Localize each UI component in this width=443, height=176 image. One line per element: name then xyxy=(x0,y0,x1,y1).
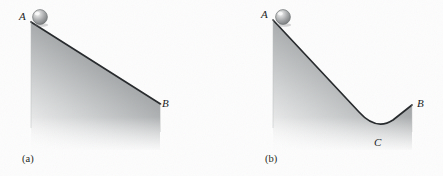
bottom-fade-b xyxy=(271,60,414,152)
figure-panel-a: A B (a) xyxy=(0,0,221,176)
panel-a-drawing xyxy=(0,0,221,176)
ball-sphere-a xyxy=(33,10,48,25)
point-label-a-start: A xyxy=(19,11,26,22)
point-label-a-end: B xyxy=(162,98,169,109)
point-label-b-start: A xyxy=(261,9,268,20)
bottom-fade-a xyxy=(29,60,163,152)
panel-caption-b: (b) xyxy=(265,154,277,165)
panel-caption-a: (a) xyxy=(22,154,34,165)
figure-container: A B (a) xyxy=(0,0,443,176)
point-label-b-valley: C xyxy=(374,137,382,148)
ball-sphere-b xyxy=(276,10,291,25)
ball-highlight-b xyxy=(278,12,283,16)
panel-b-drawing xyxy=(221,0,443,176)
figure-panel-b: A C B (b) xyxy=(221,0,442,176)
point-label-b-end: B xyxy=(417,98,424,109)
ball-highlight-a xyxy=(35,12,40,16)
